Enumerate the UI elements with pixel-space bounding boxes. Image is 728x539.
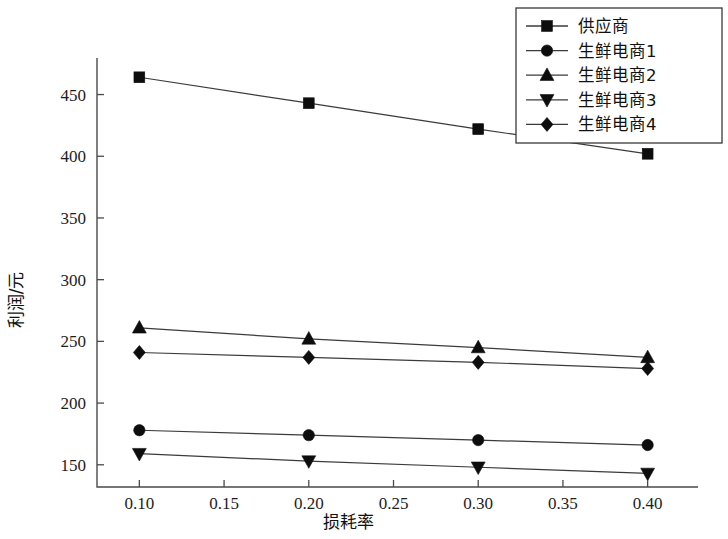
marker-circle: [541, 45, 552, 56]
y-tick-label: 150: [61, 456, 87, 475]
profit-vs-loss-rate-chart: 0.100.150.200.250.300.350.40 15020025030…: [0, 0, 728, 539]
data-point: [473, 434, 484, 445]
x-tick-label: 0.40: [633, 494, 663, 513]
x-axis-title: 损耗率: [323, 512, 374, 532]
y-tick-label: 200: [61, 394, 87, 413]
data-point: [134, 425, 145, 436]
y-tick-label: 300: [61, 271, 87, 290]
data-point: [303, 98, 314, 109]
marker-square: [303, 98, 314, 109]
marker-square: [134, 72, 145, 83]
marker-circle: [134, 425, 145, 436]
x-tick-label: 0.30: [463, 494, 493, 513]
legend-label: 生鲜电商2: [578, 66, 657, 85]
y-tick-label: 350: [61, 209, 87, 228]
marker-square: [473, 124, 484, 135]
data-point: [642, 439, 653, 450]
legend-label: 供应商: [578, 17, 629, 36]
legend-marker: [542, 21, 553, 32]
data-point: [642, 148, 653, 159]
legend: 供应商生鲜电商1生鲜电商2生鲜电商3生鲜电商4: [516, 8, 722, 143]
marker-circle: [303, 429, 314, 440]
marker-square: [642, 148, 653, 159]
marker-circle: [642, 439, 653, 450]
x-tick-label: 0.35: [548, 494, 578, 513]
y-tick-label: 450: [61, 86, 87, 105]
legend-label: 生鲜电商3: [578, 91, 657, 110]
y-axis-title: 利润/元: [6, 272, 26, 329]
chart-canvas: 0.100.150.200.250.300.350.40 15020025030…: [0, 0, 728, 539]
x-tick-label: 0.20: [294, 494, 324, 513]
data-point: [473, 124, 484, 135]
y-tick-label: 400: [61, 147, 87, 166]
x-tick-label: 0.10: [124, 494, 154, 513]
data-point: [134, 72, 145, 83]
legend-label: 生鲜电商4: [578, 115, 657, 134]
marker-circle: [473, 434, 484, 445]
x-tick-label: 0.25: [379, 494, 409, 513]
x-tick-label: 0.15: [209, 494, 239, 513]
legend-label: 生鲜电商1: [578, 42, 657, 61]
data-point: [303, 429, 314, 440]
y-tick-label: 250: [61, 332, 87, 351]
legend-marker: [541, 45, 552, 56]
marker-square: [542, 21, 553, 32]
